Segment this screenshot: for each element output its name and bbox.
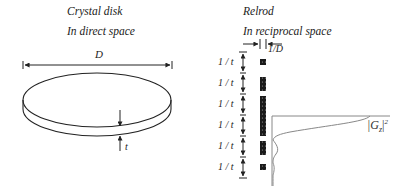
rod-segment: [260, 59, 266, 65]
relrod-segments: [260, 59, 266, 170]
diagram-canvas: [0, 0, 407, 193]
spacing-scale: [239, 52, 247, 178]
rod-segment: [260, 141, 266, 155]
intensity-profile: [272, 116, 390, 186]
crystal-disk: [23, 73, 171, 136]
rod-width-dimension: [243, 39, 282, 49]
diameter-dimension: [23, 61, 172, 69]
rod-segment: [260, 164, 266, 170]
rod-segment: [260, 96, 266, 136]
rod-segment: [260, 77, 266, 91]
